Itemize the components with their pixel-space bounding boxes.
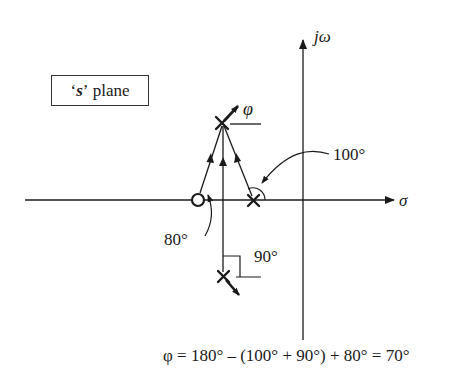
departure-direction-arrow [224,106,238,121]
angle-label-80: 80° [164,231,188,248]
vector-zero-to-upper [200,126,222,193]
imaginary-axis-label: jω [314,28,331,45]
lower-pole-departure-arrow [226,280,239,295]
pointer-100 [262,151,329,183]
real-axis-label: σ [399,192,407,209]
angle-label-90: 90° [254,248,278,265]
vector-lower-pole-to-upper [219,126,227,272]
vector-real-pole-to-upper [224,126,252,196]
departure-angle-label: φ [243,100,253,118]
angle-label-100: 100° [333,146,365,163]
departure-angle-equation: φ = 180° – (100° + 90°) + 80° = 70° [163,347,409,364]
s-plane-label-box: ‘s’ plane [51,75,149,106]
s-variable: s [76,81,83,101]
plane-suffix: plane [88,81,129,101]
pointer-80 [205,195,211,236]
s-plane-diagram [0,0,464,383]
zero-marker [192,194,204,206]
